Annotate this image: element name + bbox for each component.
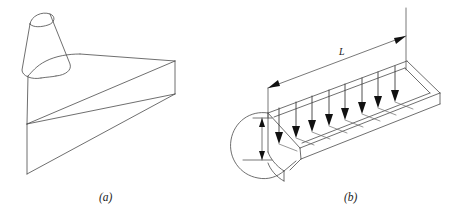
figure-container: (a) — [0, 0, 454, 221]
wedge-top-face — [27, 54, 175, 124]
wedge-front-face — [27, 76, 175, 174]
slab-thickness-edges — [268, 93, 440, 181]
panel-b-caption: (b) — [344, 191, 358, 204]
panel-b: L — [231, 8, 440, 204]
slab-top-face — [268, 61, 440, 148]
height-dimension-arrowhead-top — [259, 118, 265, 127]
length-dimension-label: L — [338, 46, 345, 57]
wedge-fillet-curve — [28, 54, 80, 76]
distributed-load-arrows — [275, 66, 413, 151]
engineering-figure: (a) — [0, 0, 454, 221]
length-dimension: L — [268, 8, 406, 118]
height-dimension-arrowhead-bottom — [259, 151, 265, 160]
panel-a-caption: (a) — [99, 191, 113, 204]
length-dimension-arrowhead-right — [394, 36, 406, 44]
length-dimension-arrowhead-left — [268, 80, 280, 88]
panel-a: (a) — [22, 13, 175, 204]
pipe-neck-body — [22, 14, 70, 79]
